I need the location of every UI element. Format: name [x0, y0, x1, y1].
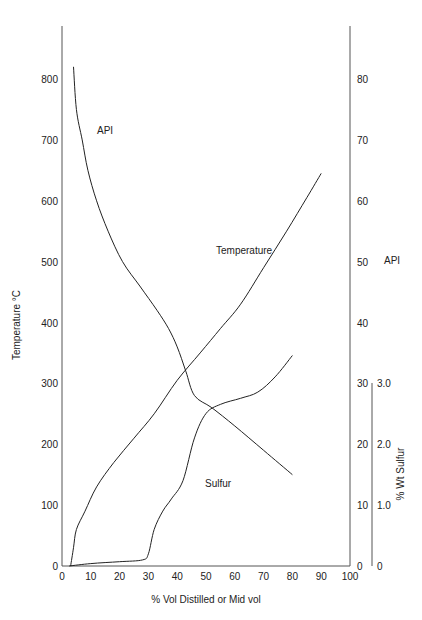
left-tick-label: 0: [52, 561, 58, 572]
api-tick-label: 40: [357, 318, 369, 329]
sulfur-curve: [69, 356, 292, 567]
sulfur-tick-label: 3.0: [377, 378, 391, 389]
left-tick-label: 700: [41, 135, 58, 146]
sulfur-curve-label: Sulfur: [205, 478, 232, 489]
api-tick-label: 20: [357, 439, 369, 450]
x-axis-title: % Vol Distilled or Mid vol: [151, 594, 260, 605]
sulfur-tick-label: 2.0: [377, 439, 391, 450]
sulfur-axis-ticks: 01.02.03.0: [377, 378, 391, 572]
right-sulfur-axis-title: % Wt Sulfur: [395, 447, 406, 500]
api-curve-label: API: [97, 125, 113, 136]
left-tick-label: 200: [41, 439, 58, 450]
api-tick-label: 10: [357, 500, 369, 511]
left-tick-label: 600: [41, 196, 58, 207]
distillation-chart: 0100200300400500600700800 01020304050607…: [0, 0, 422, 620]
api-tick-label: 60: [357, 196, 369, 207]
api-tick-label: 30: [357, 378, 369, 389]
x-tick-label: 20: [114, 571, 126, 582]
x-tick-label: 90: [316, 571, 328, 582]
x-tick-label: 50: [200, 571, 212, 582]
right-api-axis-title: API: [384, 255, 400, 266]
x-tick-label: 70: [258, 571, 270, 582]
left-tick-label: 500: [41, 257, 58, 268]
x-tick-label: 100: [342, 571, 359, 582]
x-axis-ticks: 0102030405060708090100: [59, 571, 359, 582]
left-tick-label: 800: [41, 74, 58, 85]
left-axis-ticks: 0100200300400500600700800: [41, 74, 58, 572]
left-tick-label: 400: [41, 318, 58, 329]
left-tick-label: 300: [41, 378, 58, 389]
x-tick-label: 80: [287, 571, 299, 582]
x-tick-label: 0: [59, 571, 65, 582]
api-tick-label: 0: [357, 561, 363, 572]
api-tick-label: 70: [357, 135, 369, 146]
x-tick-label: 60: [229, 571, 241, 582]
left-axis-title: Temperature °C: [11, 290, 22, 360]
api-axis-ticks: 01020304050607080: [357, 74, 369, 572]
x-tick-label: 30: [143, 571, 155, 582]
left-tick-label: 100: [41, 500, 58, 511]
sulfur-tick-label: 1.0: [377, 500, 391, 511]
sulfur-tick-label: 0: [377, 561, 383, 572]
x-tick-label: 10: [85, 571, 97, 582]
x-tick-label: 40: [172, 571, 184, 582]
api-tick-label: 80: [357, 74, 369, 85]
api-tick-label: 50: [357, 257, 369, 268]
temperature-curve-label: Temperature: [216, 245, 273, 256]
